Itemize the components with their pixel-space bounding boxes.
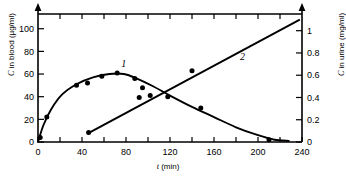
- x-tick-label: 40: [77, 147, 87, 157]
- data-point: [190, 68, 195, 73]
- data-point: [38, 135, 43, 140]
- data-point: [165, 94, 170, 99]
- data-point: [140, 85, 145, 90]
- data-point: [267, 137, 272, 142]
- y-axis-left-title-symbol: C: [7, 71, 16, 76]
- y-axis-right-title-symbol: C: [337, 71, 346, 76]
- data-point: [85, 81, 90, 86]
- y-tick-label-left: 20: [24, 115, 34, 125]
- y-tick-label-left: 80: [24, 47, 34, 57]
- x-axis-title-symbol: t: [157, 162, 159, 171]
- y-tick-label-left: 0: [29, 137, 34, 147]
- y-tick-label-right: 0.6: [307, 70, 320, 80]
- y-tick-label-left: 60: [24, 69, 34, 79]
- data-point: [132, 76, 137, 81]
- axis-frame: [35, 3, 306, 142]
- y-axis-right-arrowhead: [299, 3, 306, 11]
- y-tick-label-right: 0.4: [307, 93, 320, 103]
- x-tick-label: 200: [250, 147, 265, 157]
- x-axis-title-unit: (min): [161, 162, 179, 171]
- data-point: [74, 83, 79, 88]
- series-2: [86, 20, 300, 135]
- series-label-2: 2: [240, 51, 245, 62]
- x-tick-label: 80: [121, 147, 131, 157]
- data-point: [115, 70, 120, 75]
- series-1: [38, 70, 289, 142]
- y-axis-left-title: C in blood (µg/ml): [7, 0, 16, 100]
- data-point: [44, 115, 49, 120]
- data-point: [137, 95, 142, 100]
- y-axis-left-arrowhead: [35, 3, 42, 11]
- x-tick-label: 120: [162, 147, 177, 157]
- series-label-1: 1: [121, 58, 126, 69]
- y-axis-right-title: C in urine (mg/ml): [337, 0, 346, 100]
- data-point: [99, 74, 104, 79]
- series-line: [88, 20, 300, 134]
- x-axis-title: t (min): [118, 162, 218, 171]
- data-series: [38, 20, 300, 143]
- y-tick-label-right: 0: [307, 137, 312, 147]
- x-tick-label: 240: [294, 147, 309, 157]
- y-tick-label-left: 40: [24, 92, 34, 102]
- x-tick-label: 0: [35, 147, 40, 157]
- x-tick-label: 160: [206, 147, 221, 157]
- y-tick-label-right: 0.2: [307, 115, 320, 125]
- data-point: [86, 130, 91, 135]
- y-axis-right-title-rest: in urine (mg/ml): [337, 13, 346, 69]
- y-tick-label-right: 1: [307, 26, 312, 36]
- y-tick-label-left: 100: [19, 24, 34, 34]
- data-point: [148, 93, 153, 98]
- y-tick-label-right: 0.8: [307, 48, 320, 58]
- data-point: [198, 106, 203, 111]
- axis-ticks: [38, 14, 302, 142]
- y-axis-left-title-rest: in blood (µg/ml): [7, 13, 16, 68]
